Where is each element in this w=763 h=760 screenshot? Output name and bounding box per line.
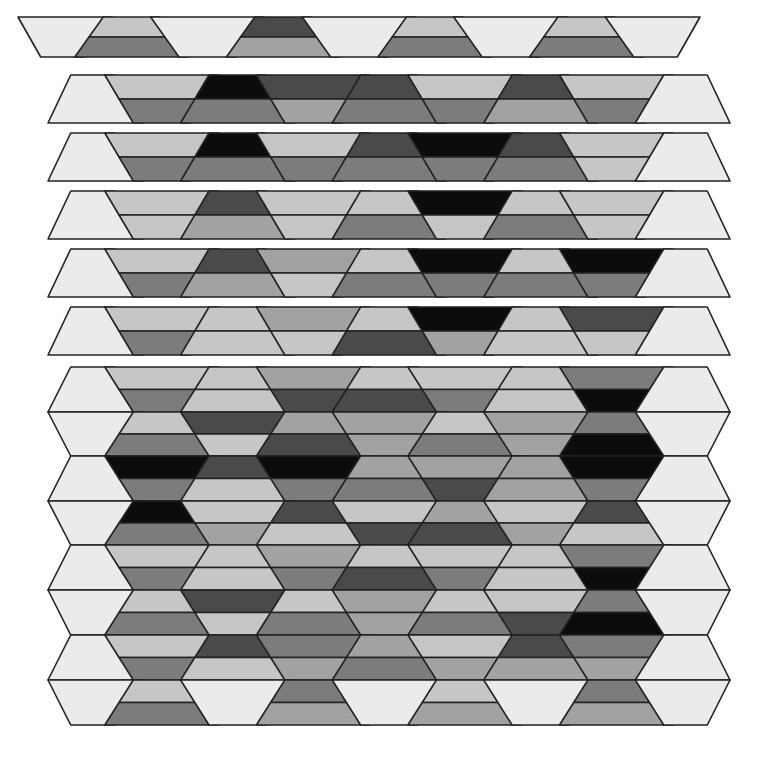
tessellation-svg	[0, 0, 763, 760]
tessellation-figure: Grayscale tessellation of trapezoid rows…	[0, 0, 763, 760]
